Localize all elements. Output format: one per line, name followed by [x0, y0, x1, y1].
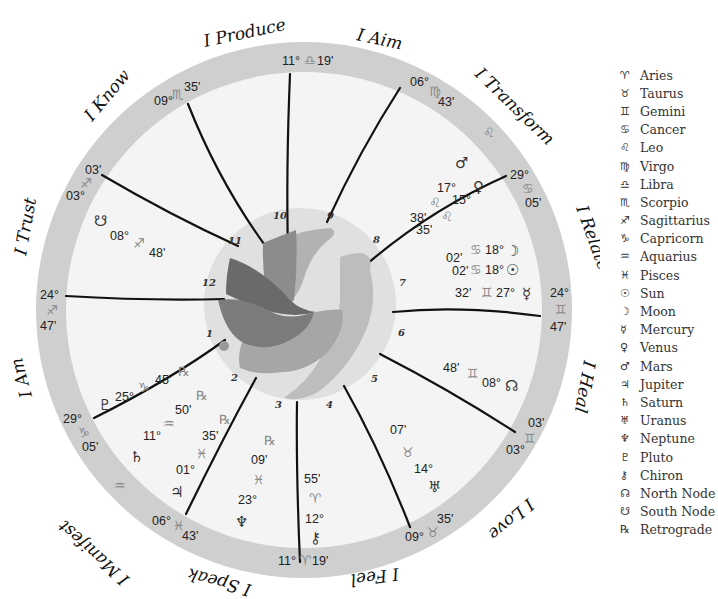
- legend-item-taurus: ♉Taurus: [620, 84, 718, 102]
- cancer-sign-icon: ♋: [522, 181, 534, 196]
- uranus-icon: ♅: [428, 478, 441, 496]
- house-number-7: 7: [399, 277, 406, 288]
- north-node-icon: ☊: [620, 487, 638, 500]
- saturn-icon: ♄: [130, 448, 143, 466]
- legend-item-pluto: ♇Pluto: [620, 448, 718, 466]
- legend-item-aquarius: ♒Aquarius: [620, 248, 718, 266]
- cusp5-minute: 35': [437, 512, 453, 526]
- gemini-sign-icon: ♊: [467, 366, 479, 381]
- sun-icon: ☉: [620, 287, 638, 300]
- aquarius-icon: ♒: [620, 250, 638, 263]
- chiron-icon: ⚷: [310, 529, 321, 547]
- jupiter-retrograde-icon: ℞: [219, 412, 231, 427]
- cusp12-degree: 03°: [66, 189, 85, 203]
- cancer-icon: ♋: [620, 123, 638, 136]
- capricorn-sign-icon: ♑: [138, 380, 150, 395]
- house-number-12: 12: [202, 277, 216, 288]
- capricorn-icon: ♑: [620, 232, 638, 245]
- legend-item-uranus: ♅Uranus: [620, 412, 718, 430]
- legend-label: Virgo: [640, 159, 674, 174]
- gemini-sign-icon: ♊: [481, 285, 493, 300]
- cusp2-degree: 29°: [63, 412, 82, 426]
- saturn-retrograde-icon: ℞: [196, 388, 208, 403]
- cusp9-degree: 06°: [410, 75, 429, 89]
- pisces-icon: ♓: [620, 269, 638, 282]
- legend-item-mars: ♂Mars: [620, 357, 718, 375]
- house-number-2: 2: [230, 372, 238, 383]
- legend-label: Capricorn: [640, 231, 704, 246]
- leo-sign-icon: ♌: [441, 209, 453, 224]
- mars-icon: ♂: [455, 154, 468, 172]
- sun-degree: 18°: [485, 263, 504, 277]
- symbol-legend: ♈Aries ♉Taurus ♊Gemini ♋Cancer ♌Leo ♍Vir…: [620, 66, 718, 539]
- taurus-sign-icon: ♉: [427, 525, 439, 540]
- legend-item-cancer: ♋Cancer: [620, 121, 718, 139]
- house-number-3: 3: [275, 399, 282, 410]
- theme-i-heal: I Heal: [571, 358, 600, 414]
- theme-i-am: I Am: [6, 356, 36, 401]
- aries-sign-icon: ♈: [299, 553, 311, 568]
- saturn-icon: ♄: [620, 396, 638, 409]
- mercury-degree: 27°: [496, 286, 515, 300]
- legend-label: Venus: [640, 340, 678, 355]
- jupiter-minute: 35': [202, 429, 218, 443]
- scorpio-sign-icon: ♏: [172, 87, 184, 102]
- pluto-minute: 45': [155, 373, 171, 387]
- legend-item-leo: ♌Leo: [620, 139, 718, 157]
- chiron-degree: 12°: [305, 512, 324, 526]
- gemini-icon: ♊: [620, 105, 638, 118]
- aries-sign-icon: ♈: [309, 491, 321, 506]
- legend-label: Saturn: [640, 395, 683, 410]
- capricorn-sign-icon: ♑: [78, 425, 90, 440]
- legend-item-sagittarius: ♐Sagittarius: [620, 212, 718, 230]
- aquarius-sign-icon: ♒: [163, 416, 175, 431]
- aquarius-intercepted-icon: ♒: [114, 478, 126, 493]
- legend-label: Sun: [640, 286, 665, 301]
- legend-item-south-node: ☋South Node: [620, 503, 718, 521]
- libra-sign-icon: ♎: [304, 53, 316, 68]
- north-node-icon: ☊: [505, 377, 518, 395]
- sagittarius-sign-icon: ♐: [133, 236, 145, 251]
- neptune-degree: 23°: [238, 493, 257, 507]
- sun-icon: ☉: [506, 261, 519, 279]
- jupiter-icon: ♃: [170, 483, 183, 501]
- south-node-degree: 08°: [110, 229, 129, 243]
- aries-icon: ♈: [620, 69, 638, 82]
- theme-i-relate: I Relate: [572, 202, 600, 273]
- gemini-sign-icon: ♊: [555, 302, 567, 317]
- cancer-sign-icon: ♋: [470, 262, 482, 277]
- neptune-icon: ♆: [620, 432, 638, 445]
- legend-item-north-node: ☊North Node: [620, 484, 718, 502]
- legend-item-pisces: ♓Pisces: [620, 266, 718, 284]
- neptune-minute: 09': [251, 453, 267, 467]
- ic-minute: 19': [312, 554, 328, 568]
- jupiter-degree: 01°: [176, 463, 195, 477]
- mc-degree: 11°: [282, 54, 300, 68]
- legend-label: Scorpio: [640, 195, 689, 210]
- saturn-degree: 11°: [143, 429, 161, 443]
- asc-degree: 24°: [40, 288, 59, 302]
- jupiter-icon: ♃: [620, 378, 638, 391]
- cusp3-minute: 43': [182, 529, 198, 543]
- house-number-8: 8: [373, 234, 380, 245]
- theme-i-trust: I Trust: [10, 196, 40, 258]
- moon-minute: 02': [446, 251, 462, 265]
- cancer-sign-icon: ♋: [470, 242, 482, 257]
- legend-item-gemini: ♊Gemini: [620, 102, 718, 120]
- cusp6-degree: 03°: [506, 443, 525, 457]
- chiron-icon: ⚷: [620, 469, 638, 482]
- legend-item-libra: ♎Libra: [620, 175, 718, 193]
- legend-item-jupiter: ♃Jupiter: [620, 375, 718, 393]
- house-number-6: 6: [398, 327, 405, 338]
- venus-minute: 35': [416, 223, 432, 237]
- cusp5-degree: 09°: [405, 530, 424, 544]
- mercury-icon: ☿: [522, 285, 531, 303]
- gemini-sign-icon: ♊: [524, 431, 536, 446]
- uranus-degree: 14°: [414, 462, 433, 476]
- uranus-icon: ♅: [620, 414, 638, 427]
- house-number-4: 4: [326, 399, 333, 410]
- ic-degree: 11°: [278, 554, 296, 568]
- uranus-minute: 07': [390, 423, 406, 437]
- north-node-minute: 48': [443, 361, 459, 375]
- legend-item-capricorn: ♑Capricorn: [620, 230, 718, 248]
